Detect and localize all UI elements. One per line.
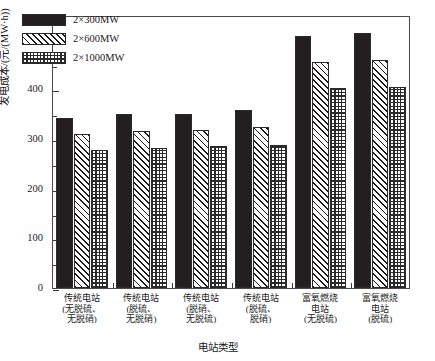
- x-axis-category-label: 富氧燃烧 电站 (无脱硫): [291, 293, 351, 325]
- y-axis-tick-label: 0: [0, 282, 43, 293]
- bar-chart: 0100200300400500 传统电站 (无脱硫、 无脱硝)传统电站 (脱硫…: [0, 0, 435, 361]
- y-axis-tick-label: 100: [0, 232, 43, 243]
- bar-series-1-group-6: [354, 33, 371, 288]
- x-axis-title: 电站类型: [0, 339, 435, 354]
- x-axis-category-label: 传统电站 (脱硫、 脱硝): [231, 293, 291, 325]
- bar-series-1-group-1: [56, 118, 73, 288]
- bar-series-2-group-6: [372, 60, 389, 288]
- y-axis-title: 发电成本/(元/(MW·h)): [0, 8, 11, 106]
- legend-swatch-series-3: [22, 52, 66, 64]
- x-axis-tick: [232, 283, 233, 288]
- legend-item: 2×300MW: [22, 10, 124, 29]
- bar-series-3-group-3: [210, 146, 227, 288]
- bar-series-2-group-2: [133, 131, 150, 288]
- y-axis-tick-label: 200: [0, 183, 43, 194]
- bar-series-3-group-5: [330, 88, 347, 288]
- bar-series-1-group-2: [116, 114, 133, 288]
- bar-series-2-group-3: [193, 130, 210, 288]
- bar-series-2-group-5: [312, 62, 329, 288]
- legend-label-series-2: 2×600MW: [73, 33, 119, 44]
- bar-series-3-group-2: [151, 148, 168, 288]
- x-axis-category-label: 传统电站 (脱硝、 无脱硫): [171, 293, 231, 325]
- x-axis-tick: [292, 283, 293, 288]
- bar-series-3-group-1: [91, 150, 108, 288]
- legend-item: 2×1000MW: [22, 48, 124, 67]
- legend-swatch-series-1: [22, 14, 66, 26]
- y-axis-major-tick: [53, 290, 59, 291]
- x-axis-category-label: 传统电站 (脱硫、 无脱硝): [112, 293, 172, 325]
- legend-item: 2×600MW: [22, 29, 124, 48]
- legend: 2×300MW 2×600MW 2×1000MW: [22, 10, 124, 67]
- bar-series-2-group-4: [253, 127, 270, 288]
- x-axis-tick: [113, 283, 114, 288]
- x-axis-tick: [351, 283, 352, 288]
- legend-swatch-series-2: [22, 33, 66, 45]
- x-axis-tick: [172, 283, 173, 288]
- y-axis-major-tick: [53, 91, 59, 92]
- bar-series-2-group-1: [74, 134, 91, 288]
- x-axis-category-label: 富氧燃烧 电站 (脱硫): [350, 293, 410, 325]
- bar-series-3-group-6: [389, 87, 406, 288]
- bar-series-1-group-4: [235, 110, 252, 288]
- bar-series-3-group-4: [270, 145, 287, 288]
- legend-label-series-3: 2×1000MW: [73, 52, 124, 63]
- bar-series-1-group-3: [175, 114, 192, 288]
- y-axis-tick-label: 300: [0, 133, 43, 144]
- x-axis-category-label: 传统电站 (无脱硫、 无脱硝): [52, 293, 112, 325]
- y-axis-minor-tick: [53, 116, 57, 117]
- legend-label-series-1: 2×300MW: [73, 14, 119, 25]
- bar-series-1-group-5: [295, 36, 312, 288]
